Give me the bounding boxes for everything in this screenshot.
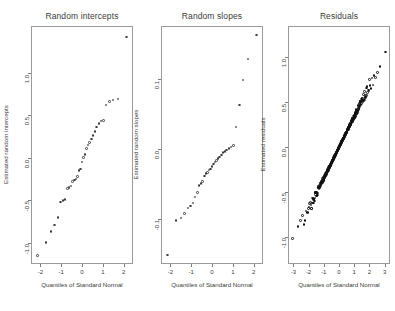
x-axis-tick (369, 264, 370, 267)
x-axis-tick-label: -1 (321, 269, 326, 275)
x-axis-tick (309, 264, 310, 267)
data-point (303, 223, 306, 226)
data-point (291, 237, 294, 240)
data-point (363, 90, 366, 93)
x-axis-tick (324, 264, 325, 267)
x-axis-tick (293, 264, 294, 267)
qq-panel-3: Residuals-3-2-10123-1.0-0.50.00.51.0Quan… (0, 0, 395, 311)
data-point (316, 194, 319, 197)
data-point (368, 78, 371, 81)
x-axis-tick-label: 1 (353, 269, 356, 275)
x-axis-tick-label: 0 (337, 269, 340, 275)
data-point (374, 76, 377, 79)
data-point (301, 214, 304, 217)
data-point (379, 65, 382, 68)
data-point (371, 77, 374, 80)
x-axis-tick (339, 264, 340, 267)
data-point (299, 219, 302, 222)
y-axis-tick-label: 1.0 (281, 57, 287, 69)
data-point (297, 225, 300, 228)
y-axis-title: Estimated residuals (259, 26, 266, 264)
x-axis-tick (385, 264, 386, 267)
x-axis-title: Quantiles of Standard Normal (288, 281, 390, 288)
data-point (310, 204, 313, 207)
panel-title: Residuals (288, 11, 390, 21)
qq-plot-figure: Random intercepts-2-1012-1.0-0.50.00.51.… (0, 0, 395, 311)
data-point (365, 94, 368, 97)
x-axis-tick-label: -3 (291, 269, 296, 275)
x-axis-tick (354, 264, 355, 267)
y-axis-tick-label: 0.0 (281, 147, 287, 159)
data-point (370, 87, 373, 90)
data-point (310, 207, 313, 210)
data-point (372, 84, 375, 87)
x-axis-tick-label: -2 (306, 269, 311, 275)
data-point (304, 219, 307, 222)
data-points-layer (288, 26, 390, 264)
y-axis-tick-label: -0.5 (281, 192, 287, 204)
y-axis-tick-label: 0.5 (281, 102, 287, 114)
x-axis-tick-label: 3 (383, 269, 386, 275)
data-point (384, 51, 387, 54)
y-axis-tick-label: -1.0 (281, 237, 287, 249)
x-axis-tick-label: 2 (368, 269, 371, 275)
data-point (307, 211, 310, 214)
data-point (376, 71, 379, 74)
